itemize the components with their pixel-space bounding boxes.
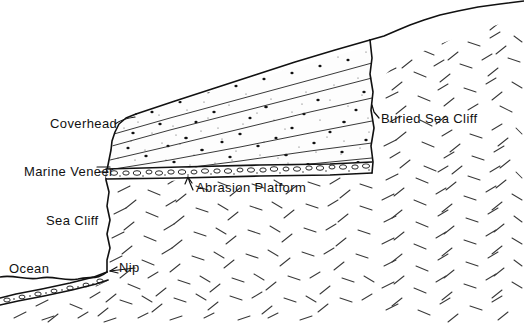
- geologic-cross-section-figure: Coverhead Marine Veneer Sea Cliff Ocean …: [0, 0, 524, 327]
- label-nip: Nip: [119, 260, 140, 275]
- label-abrasion-platform: Abrasion Platform: [196, 180, 306, 195]
- label-ocean: Ocean: [9, 261, 49, 276]
- label-buried-sea-cliff: Buried Sea Cliff: [381, 111, 478, 126]
- label-marine-veneer: Marine Veneer: [24, 164, 114, 179]
- coverhead-unit: [106, 40, 373, 179]
- cross-section-drawing: Coverhead Marine Veneer Sea Cliff Ocean …: [0, 0, 524, 327]
- label-sea-cliff: Sea Cliff: [46, 213, 99, 228]
- label-coverhead: Coverhead: [50, 116, 117, 131]
